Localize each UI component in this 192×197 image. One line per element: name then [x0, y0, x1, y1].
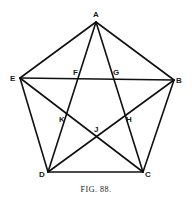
diagonal-ac: [96, 22, 143, 172]
label-h: H: [126, 115, 132, 124]
label-k: K: [59, 115, 65, 124]
side-de: [20, 78, 48, 172]
label-a: A: [93, 10, 99, 19]
label-j: J: [94, 125, 98, 134]
label-f: F: [73, 68, 78, 77]
label-d: D: [39, 170, 45, 179]
label-e: E: [10, 74, 16, 83]
label-g: G: [113, 68, 119, 77]
side-bc: [143, 80, 174, 172]
diagonal-be: [20, 78, 174, 80]
figure-caption: FIG. 88.: [81, 185, 112, 194]
label-b: B: [176, 76, 182, 85]
pentagram-diagram: A B C D E F G K J H FIG. 88.: [0, 0, 192, 197]
diagonal-ad: [48, 22, 96, 172]
side-ab: [96, 22, 174, 80]
side-ea: [20, 22, 96, 78]
label-c: C: [145, 170, 151, 179]
diagonal-ce: [20, 78, 143, 172]
diagonal-bd: [48, 80, 174, 172]
